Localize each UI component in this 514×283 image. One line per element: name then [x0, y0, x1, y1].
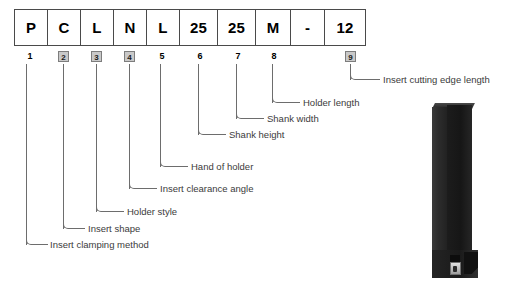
callout-label-3: Holder style	[127, 206, 177, 217]
index-number-6: 6	[193, 51, 207, 62]
callout-label-1: Insert clamping method	[50, 239, 149, 250]
designation-code-grid: P C L N L 25 25 M - 12	[14, 9, 366, 46]
holder-shank-right-face	[447, 105, 472, 263]
callout-label-2: Insert shape	[88, 223, 140, 234]
index-number-8: 8	[267, 51, 281, 62]
code-cell-1: P	[15, 10, 48, 45]
callout-label-8: Holder length	[303, 97, 360, 108]
index-number-7: 7	[231, 51, 245, 62]
diagram-canvas: P C L N L 25 25 M - 12 1 2 3 4 5 6 7 8 9…	[0, 0, 514, 283]
code-cell-6: 25	[180, 10, 218, 45]
index-number-9: 9	[345, 51, 356, 62]
code-cell-separator: -	[291, 10, 325, 45]
callout-label-9: Insert cutting edge length	[383, 74, 490, 85]
code-cell-4: N	[114, 10, 147, 45]
code-cell-5: L	[147, 10, 180, 45]
index-number-5: 5	[155, 51, 169, 62]
holder-shank-left-face	[432, 107, 447, 265]
index-number-3: 3	[91, 51, 102, 62]
code-cell-7: 25	[218, 10, 256, 45]
index-number-1: 1	[23, 51, 37, 62]
code-cell-9: 12	[325, 10, 365, 45]
index-number-2: 2	[58, 51, 69, 62]
callout-label-4: Insert clearance angle	[160, 183, 253, 194]
code-cell-3: L	[81, 10, 114, 45]
insert-clamp-hole	[453, 266, 457, 272]
code-cell-2: C	[48, 10, 81, 45]
callout-label-6: Shank height	[229, 129, 284, 140]
turning-tool-holder-photo	[424, 100, 496, 278]
index-number-4: 4	[124, 51, 135, 62]
code-cell-8: M	[256, 10, 291, 45]
callout-label-7: Shank width	[267, 113, 319, 124]
callout-label-5: Hand of holder	[191, 161, 253, 172]
